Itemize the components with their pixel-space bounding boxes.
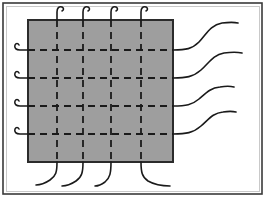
diagram-canvas — [0, 0, 266, 198]
figure-container — [0, 0, 266, 198]
shaded-block — [28, 20, 173, 162]
